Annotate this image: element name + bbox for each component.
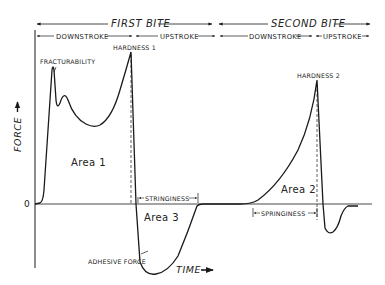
hardness1-label: HARDNESS 1: [113, 44, 156, 51]
first-upstroke-label: UPSTROKE: [160, 33, 199, 41]
second-bite-span: SECOND BITE: [219, 18, 370, 29]
tpa-diagram: FIRST BITE SECOND BITE DOWNSTROKE UPSTRO…: [0, 0, 385, 285]
second-upstroke-span: UPSTROKE: [316, 33, 369, 41]
force-label: FORCE: [12, 117, 23, 152]
time-label: TIME: [176, 264, 201, 275]
second-downstroke-span: DOWNSTROKE: [220, 33, 312, 41]
springiness-span: SPRINGINESS: [253, 208, 317, 217]
springiness-label: SPRINGINESS: [261, 210, 305, 217]
second-downstroke-label: DOWNSTROKE: [249, 33, 302, 41]
area2-label: Area 2: [281, 184, 316, 195]
adhesive-force-label: ADHESIVE FORCE: [88, 258, 146, 265]
area3-label: Area 3: [144, 212, 179, 223]
first-bite-span: FIRST BITE: [37, 18, 212, 29]
hardness2-label: HARDNESS 2: [297, 72, 340, 79]
fracturability-label: FRACTURABILITY: [40, 58, 95, 65]
stringiness-label: STRINGINESS: [145, 195, 189, 202]
first-downstroke-label: DOWNSTROKE: [56, 33, 109, 41]
first-bite-label: FIRST BITE: [111, 18, 171, 29]
second-bite-label: SECOND BITE: [271, 18, 346, 29]
second-upstroke-label: UPSTROKE: [323, 33, 362, 41]
first-downstroke-span: DOWNSTROKE: [37, 33, 132, 41]
first-upstroke-span: UPSTROKE: [136, 33, 215, 41]
area1-label: Area 1: [71, 157, 106, 168]
time-axis-label: TIME: [176, 264, 213, 275]
zero-tick-label: 0: [24, 199, 30, 209]
stringiness-span: STRINGINESS: [138, 193, 198, 203]
first-bite-curve: [35, 52, 240, 274]
force-axis-label: FORCE: [12, 102, 23, 152]
adhesive-force-pointer: [141, 251, 148, 254]
